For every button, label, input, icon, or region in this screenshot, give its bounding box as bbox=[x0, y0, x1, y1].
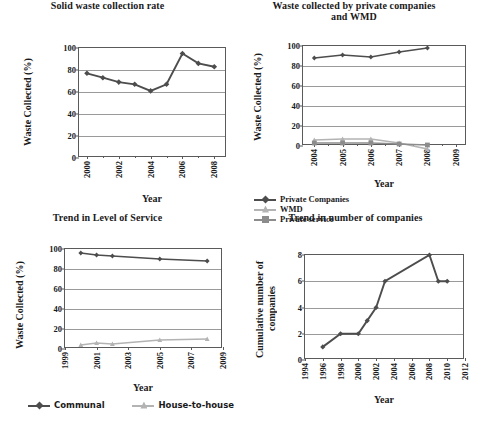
x-tick-label: 2012 bbox=[460, 363, 470, 380]
x-tick-mark bbox=[465, 358, 466, 361]
plot-area-wrapper: 02040608010020002002200420062008 bbox=[78, 47, 226, 157]
data-point-marker bbox=[425, 46, 430, 51]
chart-panel-waste-collected-private-companies-wmd: Waste collected by private companies and… bbox=[248, 0, 496, 212]
chart-title: Solid waste collection rate bbox=[0, 0, 215, 11]
figure-grid: Solid waste collection rate Waste Collec… bbox=[0, 0, 496, 424]
data-point-marker bbox=[205, 259, 210, 264]
x-tick-label: 2007 bbox=[394, 149, 404, 166]
series-layer bbox=[305, 255, 465, 360]
x-tick-label: 2002 bbox=[114, 161, 124, 178]
data-point-marker bbox=[116, 79, 122, 85]
plot-area: 020406080100200420052006200720082009 bbox=[302, 45, 466, 145]
plot-area: 020406080100199920012003200520072009 bbox=[64, 248, 222, 348]
x-tick-label: 2009 bbox=[218, 352, 228, 369]
y-tick-label: 100 bbox=[287, 41, 300, 51]
x-tick-label: 2004 bbox=[309, 149, 319, 166]
data-point-marker bbox=[445, 279, 450, 284]
x-tick-label: 2000 bbox=[82, 161, 92, 178]
x-tick-label: 2008 bbox=[209, 161, 219, 178]
data-point-marker bbox=[368, 55, 373, 60]
legend-item: Communal bbox=[28, 400, 118, 410]
data-point-marker bbox=[100, 75, 106, 81]
y-tick-label: 6 bbox=[298, 276, 302, 286]
x-tick-label: 1994 bbox=[300, 363, 310, 380]
y-axis-title-line2: companies bbox=[266, 254, 278, 364]
plot-area: 0246819941996199820002002200420062008201… bbox=[304, 254, 464, 359]
y-tick-label: 100 bbox=[63, 43, 76, 53]
x-tick-label: 2005 bbox=[155, 352, 165, 369]
plot-area-wrapper: 0246819941996199820002002200420062008201… bbox=[304, 254, 464, 359]
x-tick-mark bbox=[223, 347, 224, 350]
y-tick-label: 100 bbox=[49, 244, 62, 254]
legend-item: Private Companies bbox=[254, 194, 382, 204]
x-tick-label: 2009 bbox=[451, 149, 461, 166]
plot-area-wrapper: 020406080100199920012003200520072009 bbox=[64, 248, 222, 348]
x-tick-label: 2006 bbox=[177, 161, 187, 178]
legend-item: House-to-house bbox=[132, 400, 234, 410]
chart-title: Trend in Level of Service bbox=[0, 212, 215, 223]
chart-panel-trend-in-number-of-companies: Trend in number of companies Cumulative … bbox=[248, 212, 496, 424]
x-tick-label: 2006 bbox=[407, 363, 417, 380]
y-axis-title: Waste Collected (%) bbox=[22, 50, 34, 155]
legend-label: Private Companies bbox=[280, 194, 349, 204]
data-point-marker bbox=[211, 64, 217, 70]
y-tick-label: 20 bbox=[292, 121, 301, 131]
data-point-marker bbox=[157, 257, 162, 262]
legend-swatch bbox=[132, 401, 154, 410]
x-tick-label: 1998 bbox=[336, 363, 346, 380]
y-tick-label: 20 bbox=[68, 131, 77, 141]
data-point-marker bbox=[340, 53, 345, 58]
x-tick-label: 2008 bbox=[422, 149, 432, 166]
x-tick-label: 2007 bbox=[186, 352, 196, 369]
y-tick-label: 4 bbox=[298, 303, 302, 313]
data-point-marker bbox=[94, 253, 99, 258]
data-point-marker bbox=[110, 254, 115, 259]
data-point-marker bbox=[397, 50, 402, 55]
series-layer bbox=[65, 249, 223, 349]
data-point-marker bbox=[368, 141, 373, 146]
chart-panel-solid-waste-collection-rate: Solid waste collection rate Waste Collec… bbox=[0, 0, 248, 212]
data-point-marker bbox=[84, 71, 90, 77]
series-layer bbox=[79, 48, 227, 158]
y-axis-title: Waste Collected (%) bbox=[14, 250, 26, 360]
x-tick-label: 2008 bbox=[424, 363, 434, 380]
x-axis-title: Year bbox=[64, 382, 222, 393]
data-point-marker bbox=[132, 82, 138, 88]
y-tick-label: 80 bbox=[54, 264, 63, 274]
plot-area-wrapper: 020406080100200420052006200720082009 bbox=[302, 45, 466, 145]
x-axis-title: Year bbox=[302, 178, 466, 189]
legend-label: Communal bbox=[54, 400, 105, 410]
series-layer bbox=[303, 46, 467, 146]
y-tick-label: 0 bbox=[72, 153, 76, 163]
series-line bbox=[81, 339, 207, 345]
y-tick-label: 60 bbox=[68, 87, 77, 97]
y-tick-label: 80 bbox=[292, 61, 301, 71]
y-tick-label: 60 bbox=[292, 81, 301, 91]
legend-label: House-to-house bbox=[158, 400, 234, 410]
x-tick-label: 1999 bbox=[60, 352, 70, 369]
x-tick-label: 2001 bbox=[92, 352, 102, 369]
x-tick-label: 2000 bbox=[353, 363, 363, 380]
chart-title: Trend in number of companies bbox=[248, 212, 463, 223]
chart-title-line1: Waste collected by private companies bbox=[248, 0, 460, 11]
data-point-marker bbox=[312, 56, 317, 61]
y-tick-label: 40 bbox=[292, 101, 301, 111]
y-tick-label: 2 bbox=[298, 329, 302, 339]
x-tick-label: 1996 bbox=[318, 363, 328, 380]
x-axis-title: Year bbox=[78, 193, 226, 204]
x-tick-label: 2010 bbox=[442, 363, 452, 380]
plot-area: 02040608010020002002200420062008 bbox=[78, 47, 226, 157]
data-point-marker bbox=[312, 141, 317, 146]
legend-swatch bbox=[28, 401, 50, 410]
x-tick-label: 2003 bbox=[123, 352, 133, 369]
chart-panel-trend-in-level-of-service: Trend in Level of Service Waste Collecte… bbox=[0, 212, 248, 424]
y-tick-label: 60 bbox=[54, 284, 63, 294]
x-tick-label: 2005 bbox=[338, 149, 348, 166]
chart-title-line2: and WMD bbox=[248, 11, 460, 22]
data-point-marker bbox=[148, 88, 154, 94]
chart-legend: CommunalHouse-to-house bbox=[28, 398, 248, 412]
x-tick-label: 2004 bbox=[389, 363, 399, 380]
y-tick-label: 8 bbox=[298, 250, 302, 260]
x-axis-title: Year bbox=[304, 394, 464, 405]
legend-swatch bbox=[254, 195, 276, 204]
